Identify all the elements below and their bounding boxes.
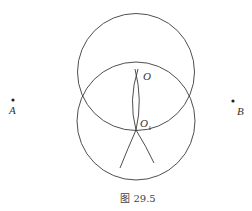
point-a-dot xyxy=(11,98,14,101)
point-b-dot xyxy=(231,99,234,102)
figure-29-5: A B O O1 图 29.5 xyxy=(0,0,252,211)
lower-circle xyxy=(77,62,195,180)
point-o1-main: O xyxy=(140,117,148,129)
point-a-label: A xyxy=(9,105,16,116)
figure-caption: 图 29.5 xyxy=(0,190,252,205)
point-o1-label: O1 xyxy=(140,118,151,132)
arc-left xyxy=(120,69,138,168)
point-b-label: B xyxy=(237,106,244,117)
point-o-label: O xyxy=(143,71,151,82)
point-o1-subscript: 1 xyxy=(148,124,152,132)
geometry-drawing xyxy=(0,0,252,211)
arc-right xyxy=(135,69,154,163)
